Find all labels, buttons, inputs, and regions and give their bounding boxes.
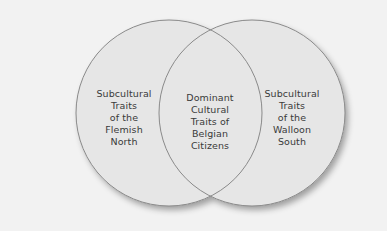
venn-diagram: Subcultural Traits of the Flemish North … xyxy=(0,0,387,231)
label-flemish-north: Subcultural Traits of the Flemish North xyxy=(84,88,164,148)
label-walloon-south: Subcultural Traits of the Walloon South xyxy=(252,88,332,148)
label-dominant-belgian: Dominant Cultural Traits of Belgian Citi… xyxy=(170,92,250,152)
